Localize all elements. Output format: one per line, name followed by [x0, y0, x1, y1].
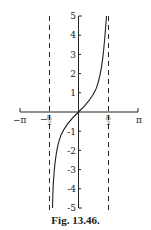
label-half-pi: π 2 — [106, 112, 112, 126]
svg-text:1: 1 — [70, 88, 76, 98]
svg-text:-1: -1 — [67, 127, 76, 137]
tangent-graph: 5 4 3 2 1 -1 -2 -3 -4 -5 −π π − π 2 π 2 — [0, 0, 151, 230]
svg-text:3: 3 — [70, 50, 76, 60]
svg-text:2: 2 — [70, 69, 76, 79]
x-tick-labels: −π π − π 2 π 2 — [13, 112, 142, 126]
svg-text:4: 4 — [70, 30, 76, 40]
label-neg-pi: −π — [13, 115, 27, 125]
svg-text:-4: -4 — [67, 184, 76, 194]
svg-text:2: 2 — [107, 119, 111, 126]
svg-text:-5: -5 — [67, 203, 76, 213]
svg-text:-3: -3 — [67, 165, 76, 175]
svg-text:2: 2 — [48, 119, 52, 126]
label-neg-half-pi: − π 2 — [40, 112, 52, 126]
label-pi: π — [136, 115, 142, 125]
svg-text:5: 5 — [70, 11, 76, 21]
svg-text:-2: -2 — [67, 146, 76, 156]
figure-caption: Fig. 13.46. — [0, 214, 151, 226]
